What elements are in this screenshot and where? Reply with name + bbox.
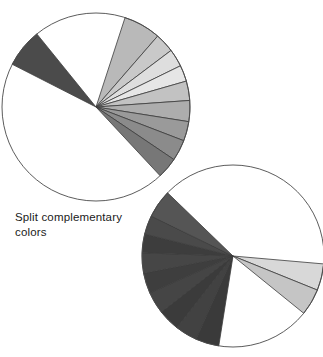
figure-caption: Split complementary colors	[15, 210, 165, 240]
color-wheel-figure	[0, 0, 323, 357]
pie-chart-top-wheel	[2, 13, 190, 201]
pie-slice-dark-wedge	[12, 34, 96, 107]
pie-chart-bottom-wheel	[142, 165, 323, 347]
